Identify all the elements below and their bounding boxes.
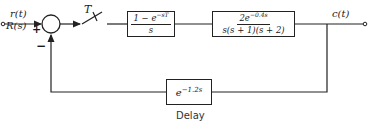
input-time-label: r(t) (10, 9, 27, 19)
plant-transfer-function: 2e−0.4s s(s + 1)(s + 2) (222, 12, 284, 36)
delay-caption: Delay (176, 110, 205, 121)
delay-transfer-function: e−1.2s (176, 86, 203, 98)
output-terminal (363, 22, 367, 26)
zoh-transfer-function: 1 − e−sT s (131, 12, 170, 36)
plus-sign: + (32, 24, 41, 35)
input-laplace-label: R(s) (6, 21, 26, 31)
zoh-denominator: s (149, 25, 153, 35)
plant-block: 2e−0.4s s(s + 1)(s + 2) (212, 11, 295, 37)
delay-block: e−1.2s (166, 79, 212, 105)
input-terminal (1, 22, 5, 26)
zoh-numerator: 1 − e (133, 13, 156, 23)
summing-junction (42, 15, 60, 33)
plant-denominator: s(s + 1)(s + 2) (222, 25, 284, 35)
plant-numerator-exp: −0.4s (250, 11, 268, 18)
zoh-block: 1 − e−sT s (127, 11, 175, 37)
plant-numerator: 2e (239, 13, 249, 23)
delay-exponent: −1.2s (182, 86, 203, 94)
zoh-numerator-exp: −sT (156, 11, 168, 18)
minus-sign: − (36, 40, 46, 52)
sampler-label: T (84, 4, 91, 15)
feedback-wire-left (51, 35, 166, 92)
output-label: c(t) (332, 9, 349, 19)
